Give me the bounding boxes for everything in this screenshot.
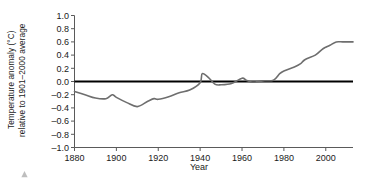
y-tick-label: 0.6 xyxy=(56,37,69,47)
y-tick-label: 0.2 xyxy=(56,64,69,74)
x-tick-mark-group xyxy=(75,148,326,152)
y-tick-label: 0.8 xyxy=(56,24,69,34)
corner-marker-icon xyxy=(20,170,29,179)
y-tick-label: –1.0 xyxy=(51,143,69,153)
y-tick-label: –0.4 xyxy=(51,103,69,113)
y-tick-label: –0.8 xyxy=(51,130,69,140)
y-tick-label: –0.6 xyxy=(51,116,69,126)
plot-area: 1.00.80.60.40.20.0–0.2–0.4–0.6–0.8–1.0 1… xyxy=(0,0,368,184)
x-axis-label: Year xyxy=(0,162,368,172)
y-tick-label: 1.0 xyxy=(56,11,69,21)
y-tick-label: –0.2 xyxy=(51,90,69,100)
x-axis-label-text: Year xyxy=(190,162,208,172)
y-tick-mark-group xyxy=(71,16,75,148)
temperature-anomaly-line xyxy=(75,42,354,107)
chart-figure: Temperature anomaly (°C) relative to 190… xyxy=(0,0,368,184)
y-tick-label: 0.4 xyxy=(56,50,69,60)
y-tick-label: 0.0 xyxy=(56,77,69,87)
y-tick-label-group: 1.00.80.60.40.20.0–0.2–0.4–0.6–0.8–1.0 xyxy=(51,11,69,153)
